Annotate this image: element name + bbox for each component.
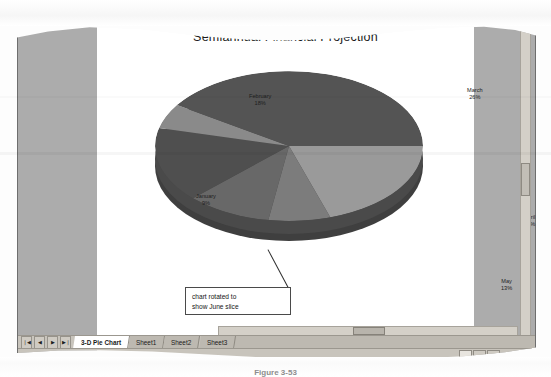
status-bar: Ready 73% xyxy=(18,348,535,360)
view-mode-buttons xyxy=(459,350,504,360)
pie-chart-graphic[interactable] xyxy=(155,71,423,243)
pie-top-surface xyxy=(155,71,423,221)
horizontal-scrollbar-thumb[interactable] xyxy=(353,327,385,335)
scan-top-shading xyxy=(0,0,551,26)
callout-leader-line xyxy=(268,249,291,292)
sheet-tab-bar: ❘◀ ◀ ▶ ▶❘ 3-D Pie Chart Sheet1 Sheet2 Sh… xyxy=(18,335,535,349)
callout-annotation: chart rotated to show June slice xyxy=(185,287,291,315)
pie-label-may: May 13% xyxy=(501,278,512,292)
page-break-view-icon[interactable] xyxy=(487,350,500,360)
pie-label-february: February 18% xyxy=(249,93,271,107)
page-layout-view-icon[interactable] xyxy=(473,350,486,360)
figure-caption: Figure 3-53 xyxy=(0,368,551,377)
normal-view-icon[interactable] xyxy=(459,350,472,360)
left-gray-margin xyxy=(18,25,97,360)
excel-chart-window: Semiannual Financial Projection xyxy=(17,24,536,361)
status-message: Ready xyxy=(18,351,41,358)
scanned-book-page: Semiannual Financial Projection xyxy=(0,0,551,377)
pie-slices-svg xyxy=(155,71,423,221)
chart-sheet-area: Semiannual Financial Projection xyxy=(97,25,474,338)
zoom-out-icon[interactable] xyxy=(520,350,530,360)
pie-label-march: March 26% xyxy=(467,87,483,101)
chart-title: Semiannual Financial Projection xyxy=(97,30,474,44)
pie-label-january: January 9% xyxy=(196,193,216,207)
zoom-level-label[interactable]: 73% xyxy=(504,351,520,358)
vertical-scrollbar[interactable] xyxy=(520,27,531,336)
vertical-scrollbar-thumb[interactable] xyxy=(521,163,530,196)
